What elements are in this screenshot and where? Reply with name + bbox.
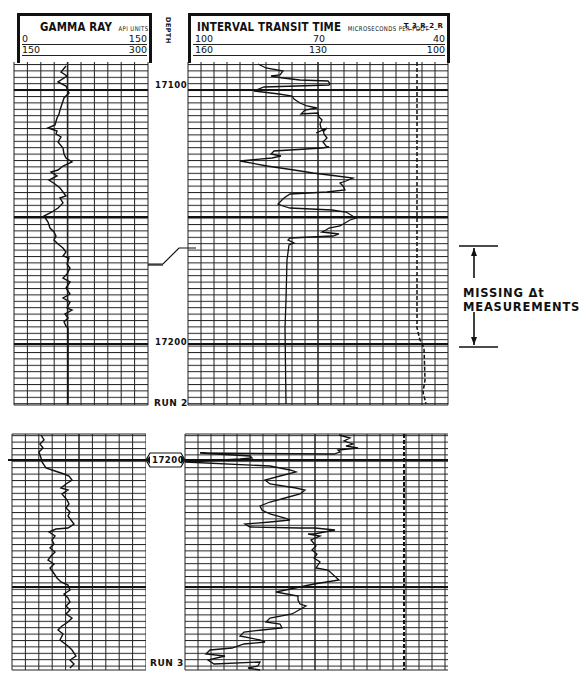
missing-measurements-note: MISSING Δt MEASUREMENTS (463, 286, 580, 314)
upper-transit-track (188, 62, 448, 405)
depth-label-17200-run2: 17200 (155, 337, 187, 347)
note-line-2: MEASUREMENTS (463, 300, 580, 314)
lower-gamma-track (8, 434, 146, 670)
lower-depth-track (146, 434, 185, 670)
run-3-label: RUN 3 (150, 658, 184, 668)
upper-gamma-track (14, 62, 148, 405)
run-2-label: RUN 2 (154, 398, 188, 408)
note-line-1: MISSING Δt (463, 286, 580, 300)
lower-transit-track (185, 434, 448, 670)
depth-label-17200-run3: 17200 (152, 455, 184, 465)
depth-label-17100: 17100 (155, 80, 187, 90)
